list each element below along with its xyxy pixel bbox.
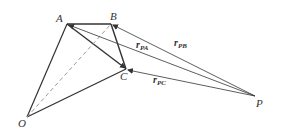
vector-r-pc <box>128 70 255 96</box>
vector-ob-dashed <box>27 24 111 117</box>
vector-oa <box>27 24 67 117</box>
vector-oc <box>27 69 126 117</box>
vector-r-pb <box>113 25 255 96</box>
point-label-b: B <box>110 10 117 22</box>
point-label-c: C <box>120 70 128 82</box>
rigid-body-diagram: A B C O P rPA rPB rPC <box>0 0 281 136</box>
point-label-a: A <box>55 12 63 24</box>
label-r-pb: rPB <box>174 37 187 50</box>
label-r-pc: rPC <box>153 74 166 87</box>
label-r-pa: rPA <box>136 39 149 52</box>
edge-ac <box>67 24 125 68</box>
point-label-o: O <box>18 117 26 129</box>
point-label-p: P <box>255 97 263 109</box>
